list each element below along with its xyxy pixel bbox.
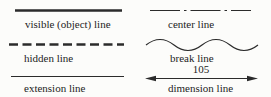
break-line-sample — [145, 36, 259, 53]
line-types-diagram: visible (object) line hidden line extens… — [0, 0, 271, 97]
visible-line-label: visible (object) line — [25, 19, 111, 30]
left-arrowhead-icon — [145, 76, 156, 81]
hidden-line-sample — [9, 42, 124, 47]
extension-line-sample — [11, 75, 124, 78]
center-line-label: center line — [168, 19, 214, 30]
right-arrowhead-icon — [247, 76, 258, 81]
hidden-line-label: hidden line — [24, 53, 73, 64]
center-line-sample — [150, 9, 251, 12]
extension-line-label: extension line — [24, 83, 85, 94]
dimension-line-label: dimension line — [168, 83, 233, 94]
visible-line-sample — [14, 8, 123, 13]
